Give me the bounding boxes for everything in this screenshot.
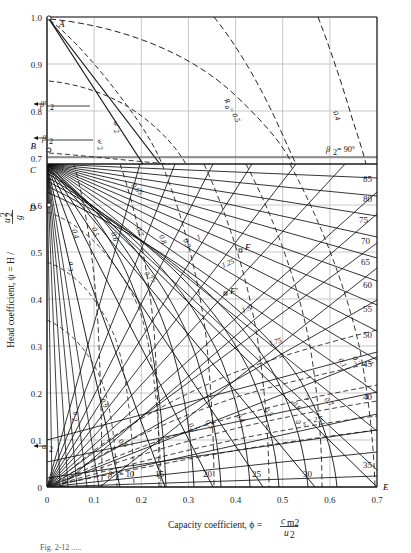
- svg-text:g: g: [14, 215, 24, 220]
- point-Fp-label: F′: [229, 286, 238, 296]
- point-A-marker: [47, 16, 51, 20]
- x-tick: 0.4: [230, 495, 242, 505]
- omega-symbol: ω: [295, 416, 301, 425]
- x-tick: 0.2: [136, 495, 147, 505]
- beta2-right-label: 45: [363, 359, 373, 369]
- beta2-bottom-label: 20: [203, 469, 213, 479]
- svg-text:α: α: [42, 442, 47, 451]
- x-tick: 0.3: [183, 495, 195, 505]
- y-tick: 0.5: [31, 248, 43, 258]
- svg-text:u: u: [2, 218, 12, 223]
- svg-text:2: 2: [290, 530, 295, 540]
- point-E-label: E: [382, 482, 389, 492]
- beta2-right-label: 35: [363, 460, 373, 470]
- figure-root: 1.0 0.9 0.8 0.7 0.6 0.5 0.4 0.3 0.2 0.1 …: [0, 0, 411, 553]
- y-tick: 0: [38, 483, 43, 493]
- beta2-bottom-label: 25: [252, 469, 262, 479]
- y-tick: 0.9: [31, 60, 43, 70]
- svg-text:2: 2: [49, 137, 53, 146]
- x-tick: 0.5: [277, 495, 289, 505]
- point-F-label: F: [244, 242, 251, 252]
- beta2-right-label: 70: [361, 236, 371, 246]
- figure-caption: Fig. 2-12 .....: [40, 543, 81, 552]
- point-A-label: A: [58, 19, 65, 29]
- beta-bottom-eq: = 10: [119, 470, 134, 479]
- svg-text:2: 2: [49, 445, 53, 454]
- y-tick: 0.4: [31, 295, 43, 305]
- beta2-right-label: 60: [363, 280, 373, 290]
- point-C-label: C: [30, 165, 37, 175]
- x-tick: 0.7: [371, 495, 383, 505]
- svg-text:u: u: [284, 528, 289, 538]
- y-tick: 0.1: [31, 436, 42, 446]
- x-tick: 0: [45, 495, 50, 505]
- svg-text:2: 2: [0, 212, 9, 217]
- omega-value: = 2.5: [306, 414, 323, 425]
- beta-90-eq: = 90°: [337, 145, 355, 154]
- y-tick: 0.3: [31, 342, 43, 352]
- beta2-right-label: 55: [363, 304, 373, 314]
- x-axis-title-text: Capacity coefficient, ϕ =: [168, 520, 262, 530]
- point-B-label: B: [31, 141, 37, 151]
- beta2-right-label: 65: [361, 257, 371, 267]
- beta2-bottom-label: 15: [155, 469, 165, 479]
- x-tick: 0.6: [324, 495, 336, 505]
- beta2-right-label: 50: [363, 330, 373, 340]
- beta2-right-label: 40: [363, 392, 373, 402]
- point-D-marker: [47, 203, 51, 207]
- svg-text:2: 2: [50, 103, 54, 112]
- point-D-label: D: [29, 203, 37, 213]
- beta2-right-label: 75: [359, 215, 369, 225]
- y-tick: 0.2: [31, 389, 42, 399]
- beta2-bottom-label: 30: [303, 469, 313, 479]
- svg-text:β′: β′: [39, 100, 46, 109]
- beta2-right-label: 85: [363, 174, 373, 184]
- point-B-marker: [47, 148, 51, 152]
- beta2-right-label: 80: [363, 194, 373, 204]
- x-tick: 0.1: [88, 495, 99, 505]
- y-tick: 1.0: [31, 13, 43, 23]
- chart-svg: 1.0 0.9 0.8 0.7 0.6 0.5 0.4 0.3 0.2 0.1 …: [0, 0, 411, 553]
- y-axis-title-text: Head coefficient, ψ = H /: [6, 252, 16, 348]
- y-tick: 0.7: [31, 154, 43, 164]
